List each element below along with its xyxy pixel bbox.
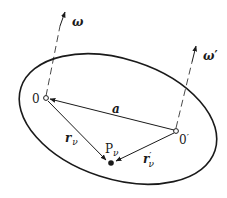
point-O-marker — [44, 96, 49, 101]
r-nu-arrow — [48, 101, 106, 160]
point-O-prime-label: 0′ — [179, 132, 190, 147]
omega-prime-axis-dashed — [176, 62, 192, 128]
r-nu-label: rν — [65, 131, 78, 147]
vector-a-label: a — [112, 102, 120, 116]
omega-arrow — [60, 12, 65, 26]
point-O-label: 0 — [32, 92, 40, 106]
omega-label: ω — [72, 15, 84, 29]
point-P-label: Pν — [105, 142, 119, 158]
omega-prime-label: ω′ — [203, 49, 218, 63]
point-O-prime-marker — [174, 129, 179, 134]
r-nu-prime-label: r′ν — [143, 150, 155, 169]
rigid-body-diagram: ω ω′ a rν r′ν 0 0′ Pν — [0, 0, 227, 198]
point-P-marker — [108, 160, 114, 166]
omega-prime-arrow — [192, 46, 196, 62]
